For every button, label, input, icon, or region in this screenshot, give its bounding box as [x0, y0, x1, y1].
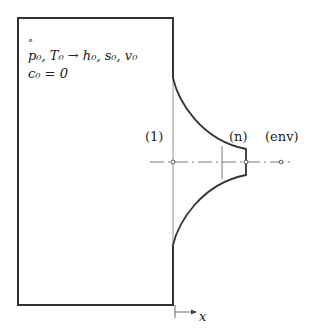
section-1-marker — [171, 160, 175, 164]
tank-state-line-2: c₀ = 0 — [28, 67, 68, 81]
x-axis-arrowhead — [191, 310, 197, 315]
section-n-label: (n) — [229, 130, 248, 144]
nozzle-lower-contour — [173, 162, 246, 245]
section-env-label: (env) — [265, 130, 299, 144]
nozzle-upper-contour — [173, 78, 246, 162]
section-n-marker — [244, 160, 248, 164]
section-env-marker — [279, 160, 283, 164]
section-1-label: (1) — [145, 130, 163, 144]
tank-state-line-1: p₀, T₀ → h₀, s₀, v₀ — [28, 49, 137, 63]
x-axis-label: x — [199, 310, 206, 324]
